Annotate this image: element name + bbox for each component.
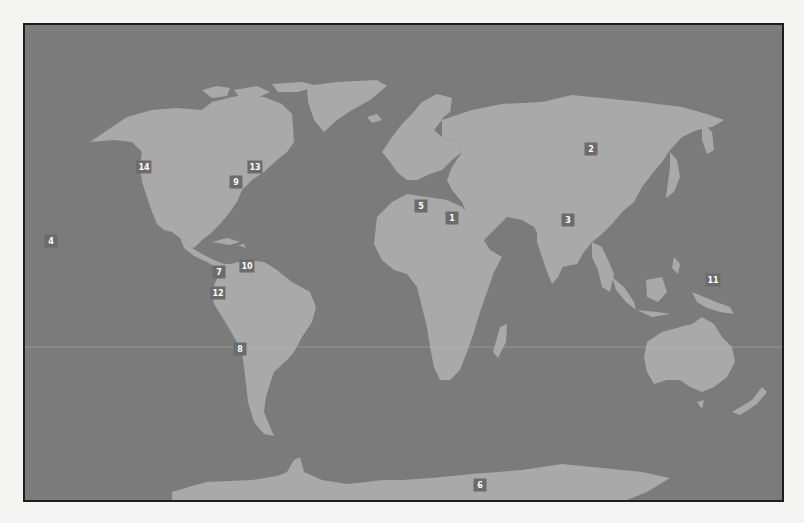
map-marker-5[interactable]: 5: [415, 200, 428, 213]
map-marker-8[interactable]: 8: [234, 343, 247, 356]
map-marker-13[interactable]: 13: [247, 161, 262, 174]
map-marker-11[interactable]: 11: [705, 274, 720, 287]
world-map: 1234567891011121314: [23, 23, 784, 502]
map-marker-10[interactable]: 10: [239, 260, 254, 273]
map-marker-12[interactable]: 12: [210, 287, 225, 300]
map-marker-14[interactable]: 14: [136, 161, 151, 174]
landmass-north-america: [90, 94, 294, 248]
map-marker-3[interactable]: 3: [562, 214, 575, 227]
map-marker-4[interactable]: 4: [45, 235, 58, 248]
map-marker-9[interactable]: 9: [230, 176, 243, 189]
world-map-landmasses: [25, 25, 782, 500]
map-marker-7[interactable]: 7: [213, 266, 226, 279]
landmass-south-america: [212, 260, 316, 436]
map-marker-1[interactable]: 1: [446, 212, 459, 225]
map-marker-6[interactable]: 6: [474, 479, 487, 492]
landmass-australia: [644, 317, 735, 392]
map-marker-2[interactable]: 2: [585, 143, 598, 156]
landmass-antarctica: [172, 457, 670, 500]
landmass-greenland: [307, 80, 387, 132]
